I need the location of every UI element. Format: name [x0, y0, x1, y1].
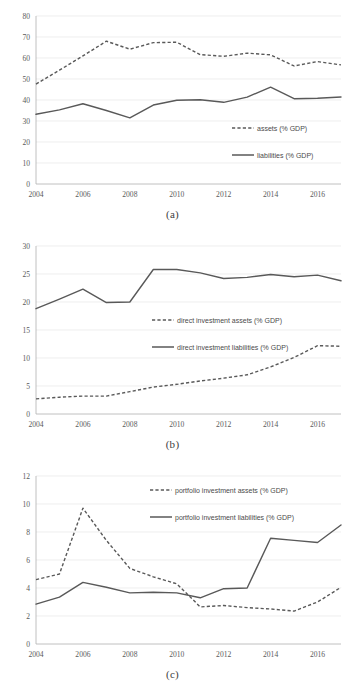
y-axis-tick-label: 30: [22, 117, 30, 126]
line-chart-c: 0246810122004200620082010201220142016por…: [0, 460, 345, 672]
y-axis-tick-label: 0: [26, 410, 30, 419]
panel-caption-c: (c): [0, 668, 345, 680]
legend-label: assets (% GDP): [257, 125, 307, 133]
y-axis-tick-label: 8: [26, 528, 30, 537]
legend-label: direct investment assets (% GDP): [177, 317, 282, 325]
panel-caption-b: (b): [0, 438, 345, 450]
x-axis-tick-label: 2004: [28, 420, 43, 429]
x-axis-tick-label: 2016: [310, 650, 325, 659]
y-axis-tick-label: 2: [26, 612, 30, 621]
y-axis-tick-label: 25: [22, 270, 30, 279]
series-line-liabilities: [36, 525, 341, 604]
x-axis-tick-label: 2006: [75, 650, 90, 659]
legend-label: direct investment liabilities (% GDP): [177, 344, 288, 352]
legend-label: portfolio investment assets (% GDP): [175, 487, 288, 495]
x-axis-tick-label: 2010: [169, 650, 184, 659]
x-axis-tick-label: 2016: [310, 420, 325, 429]
y-axis-tick-label: 40: [22, 96, 30, 105]
y-axis-tick-label: 80: [22, 12, 30, 21]
x-axis-tick-label: 2012: [216, 650, 231, 659]
series-line-liabilities: [36, 270, 341, 309]
y-axis-tick-label: 0: [26, 640, 30, 649]
x-axis-tick-label: 2006: [75, 190, 90, 199]
x-axis-tick-label: 2014: [263, 650, 278, 659]
x-axis-tick-label: 2014: [263, 190, 278, 199]
chart-panel-c: 0246810122004200620082010201220142016por…: [0, 460, 345, 690]
series-line-liabilities: [36, 87, 341, 118]
x-axis-tick-label: 2012: [216, 190, 231, 199]
x-axis-tick-label: 2004: [28, 190, 43, 199]
y-axis-tick-label: 50: [22, 75, 30, 84]
line-chart-a: 0102030405060708020042006200820102012201…: [0, 0, 345, 212]
y-axis-tick-label: 60: [22, 54, 30, 63]
y-axis-tick-label: 20: [22, 138, 30, 147]
x-axis-tick-label: 2010: [169, 420, 184, 429]
x-axis-tick-label: 2014: [263, 420, 278, 429]
series-line-assets: [36, 346, 341, 399]
x-axis-tick-label: 2008: [122, 190, 137, 199]
y-axis-tick-label: 12: [22, 472, 30, 481]
x-axis-tick-label: 2010: [169, 190, 184, 199]
y-axis-tick-label: 15: [22, 326, 30, 335]
y-axis-tick-label: 10: [22, 159, 30, 168]
y-axis-tick-label: 4: [26, 584, 30, 593]
y-axis-tick-label: 5: [26, 382, 30, 391]
y-axis-tick-label: 10: [22, 354, 30, 363]
y-axis-tick-label: 0: [26, 180, 30, 189]
x-axis-tick-label: 2016: [310, 190, 325, 199]
x-axis-tick-label: 2012: [216, 420, 231, 429]
series-line-assets: [36, 41, 341, 84]
chart-panel-b: 0510152025302004200620082010201220142016…: [0, 230, 345, 460]
y-axis-tick-label: 6: [26, 556, 30, 565]
x-axis-tick-label: 2008: [122, 650, 137, 659]
y-axis-tick-label: 30: [22, 242, 30, 251]
line-chart-b: 0510152025302004200620082010201220142016…: [0, 230, 345, 442]
legend-label: liabilities (% GDP): [257, 152, 313, 160]
x-axis-tick-label: 2008: [122, 420, 137, 429]
x-axis-tick-label: 2006: [75, 420, 90, 429]
legend-label: portfolio investment liabilities (% GDP): [175, 514, 294, 522]
y-axis-tick-label: 20: [22, 298, 30, 307]
y-axis-tick-label: 10: [22, 500, 30, 509]
x-axis-tick-label: 2004: [28, 650, 43, 659]
panel-caption-a: (a): [0, 208, 345, 220]
figure-container: 0102030405060708020042006200820102012201…: [0, 0, 345, 691]
chart-panel-a: 0102030405060708020042006200820102012201…: [0, 0, 345, 230]
y-axis-tick-label: 70: [22, 33, 30, 42]
